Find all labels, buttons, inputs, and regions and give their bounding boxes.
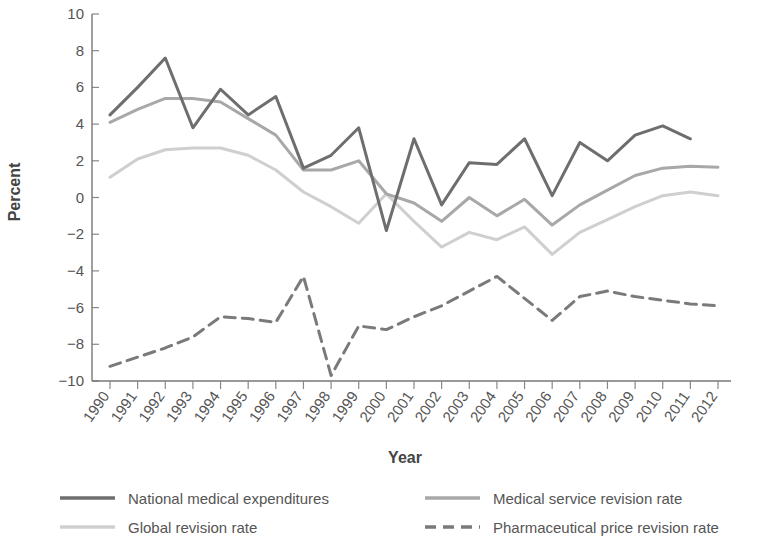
y-tick-label: 10 <box>67 5 84 22</box>
x-tick-label: 2002 <box>411 388 444 425</box>
chart-legend: National medical expendituresMedical ser… <box>60 490 719 536</box>
y-tick-label: −2 <box>67 225 84 242</box>
x-tick-label: 2006 <box>522 388 555 425</box>
y-tick-label: 6 <box>76 78 84 95</box>
x-tick-label: 2001 <box>383 388 416 425</box>
x-axis-title: Year <box>388 449 422 466</box>
x-axis-tick-labels: 1990199119921993199419951996199719981999… <box>79 388 720 425</box>
x-tick-label: 1990 <box>79 388 112 425</box>
y-tick-label: 8 <box>76 42 84 59</box>
legend-label-1: Medical service revision rate <box>493 490 682 507</box>
x-tick-label: 1993 <box>162 388 195 425</box>
x-tick-label: 1997 <box>273 388 306 425</box>
x-tick-label: 2012 <box>687 388 720 425</box>
chart-figure: 1086420−2−4−6−8−10 199019911992199319941… <box>0 0 760 545</box>
x-tick-label: 2009 <box>604 388 637 425</box>
x-tick-label: 1995 <box>218 388 251 425</box>
y-axis-tick-marks <box>92 14 99 381</box>
y-tick-label: 0 <box>76 189 84 206</box>
x-tick-label: 2005 <box>494 388 527 425</box>
y-tick-label: 4 <box>76 115 84 132</box>
x-tick-label: 1996 <box>245 388 278 425</box>
x-tick-label: 2008 <box>577 388 610 425</box>
x-tick-label: 2000 <box>356 388 389 425</box>
x-tick-label: 1994 <box>190 388 223 425</box>
x-tick-label: 2004 <box>466 388 499 425</box>
line-chart-svg: 1086420−2−4−6−8−10 199019911992199319941… <box>0 0 760 545</box>
legend-label-0: National medical expenditures <box>128 490 329 507</box>
y-axis-title: Percent <box>6 162 23 221</box>
x-tick-label: 2011 <box>660 388 692 424</box>
x-tick-label: 1999 <box>328 388 361 425</box>
y-tick-label: 2 <box>76 152 84 169</box>
y-tick-label: −4 <box>67 262 84 279</box>
series-line-3 <box>110 276 718 375</box>
y-tick-label: −8 <box>67 335 84 352</box>
x-tick-label: 2010 <box>632 388 665 425</box>
x-tick-label: 2007 <box>549 388 582 425</box>
x-tick-label: 2003 <box>439 388 472 425</box>
y-tick-label: −10 <box>59 372 84 389</box>
series-line-0 <box>110 58 690 230</box>
x-tick-label: 1992 <box>135 388 168 425</box>
legend-label-2: Global revision rate <box>128 519 257 536</box>
data-series-group <box>110 58 718 375</box>
y-axis-tick-labels: 1086420−2−4−6−8−10 <box>59 5 84 389</box>
series-line-2 <box>110 148 718 254</box>
x-tick-label: 1998 <box>300 388 333 425</box>
x-axis-tick-marks <box>110 381 718 389</box>
legend-label-3: Pharmaceutical price revision rate <box>493 519 719 536</box>
x-tick-label: 1991 <box>107 388 140 425</box>
y-tick-label: −6 <box>67 299 84 316</box>
